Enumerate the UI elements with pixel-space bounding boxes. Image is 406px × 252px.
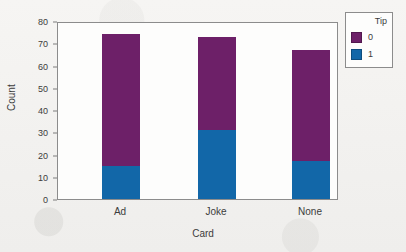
y-tick-label: 0	[43, 196, 48, 205]
y-tick-label: 50	[38, 84, 48, 93]
x-axis-title: Card	[0, 228, 406, 239]
bar-group-ad	[102, 34, 140, 199]
bar-segment-ad-tip-0	[102, 34, 140, 165]
bar-segment-ad-tip-1	[102, 166, 140, 199]
stacked-bar-chart: 01020304050607080 Count AdJokeNone Card …	[0, 0, 406, 252]
legend-swatch-icon	[351, 32, 362, 43]
legend-item-tip-1[interactable]: 1	[351, 47, 391, 61]
y-tick-label: 60	[38, 62, 48, 71]
y-axis-title: Count	[6, 84, 17, 111]
x-tick-label-none: None	[275, 206, 345, 217]
bar-segment-joke-tip-0	[198, 37, 236, 130]
y-tick-label: 30	[38, 129, 48, 138]
y-axis: 01020304050607080	[0, 22, 57, 200]
legend-item-label: 0	[368, 32, 373, 42]
legend-title: Tip	[375, 16, 387, 26]
plot-area	[58, 23, 337, 199]
legend: Tip 01	[345, 12, 393, 68]
legend-item-label: 1	[368, 49, 373, 59]
y-tick-label: 40	[38, 107, 48, 116]
bar-segment-none-tip-0	[292, 50, 330, 161]
legend-swatch-icon	[351, 49, 362, 60]
y-tick-label: 10	[38, 173, 48, 182]
y-tick-label: 70	[38, 40, 48, 49]
x-tick-label-joke: Joke	[181, 206, 251, 217]
legend-item-tip-0[interactable]: 0	[351, 30, 391, 44]
bar-segment-none-tip-1	[292, 161, 330, 199]
y-tick-label: 20	[38, 151, 48, 160]
bar-group-joke	[198, 37, 236, 199]
x-tick-label-ad: Ad	[85, 206, 155, 217]
y-tick-label: 80	[38, 18, 48, 27]
bar-segment-joke-tip-1	[198, 130, 236, 199]
plot-frame	[57, 22, 338, 200]
bar-group-none	[292, 50, 330, 199]
